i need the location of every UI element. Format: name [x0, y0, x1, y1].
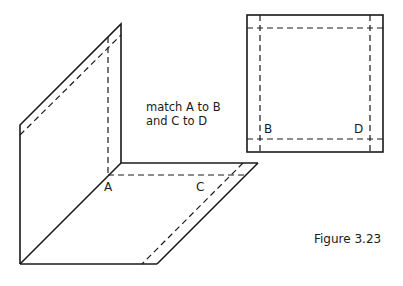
label-d: D: [354, 122, 363, 136]
label-a: A: [104, 180, 113, 194]
instruction-line-1: match A to B: [146, 100, 221, 114]
instructions: match A to B and C to D: [146, 100, 221, 128]
floor-panel: [20, 163, 258, 264]
wall-panel: [20, 24, 121, 264]
label-b: B: [264, 122, 272, 136]
label-c: C: [196, 180, 204, 194]
instruction-line-2: and C to D: [146, 114, 221, 128]
figure-caption: Figure 3.23: [314, 232, 381, 246]
